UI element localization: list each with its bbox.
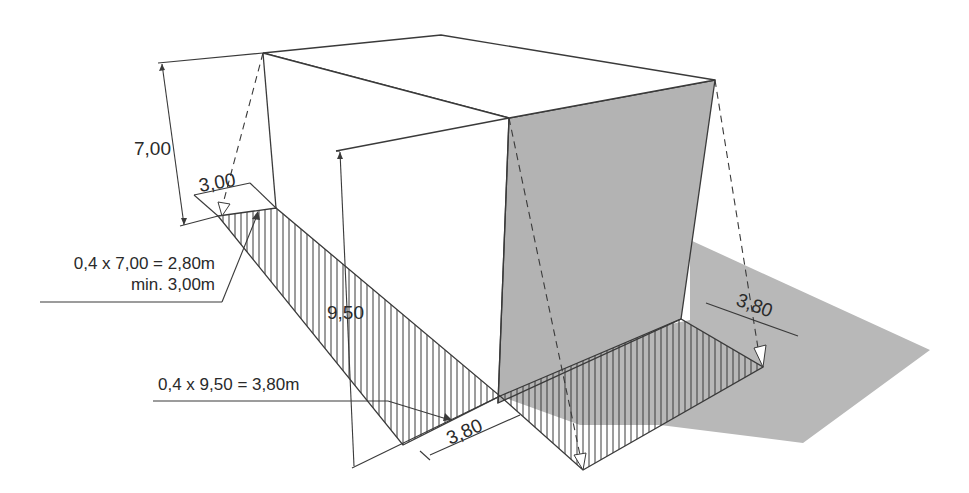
low-formula-annotation: 0,4 x 7,00 = 2,80m xyxy=(74,254,215,273)
clearance-zone-front xyxy=(218,208,500,445)
low-minimum-annotation: min. 3,00m xyxy=(131,275,215,294)
height-high-label: 9,50 xyxy=(327,302,364,323)
width-low-label: 3,00 xyxy=(197,169,237,196)
clearance-diagram: 7,00 3,00 9,50 3,80 3,80 0,4 x 7,00 = 2,… xyxy=(0,0,969,493)
high-formula-annotation: 0,4 x 9,50 = 3,80m xyxy=(158,375,299,394)
height-low-label: 7,00 xyxy=(134,138,171,159)
